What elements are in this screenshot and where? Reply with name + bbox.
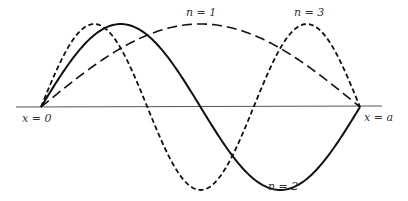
label-n3: n = 3 [294,6,324,19]
label-n1: n = 1 [186,6,216,19]
label-x-zero: x = 0 [22,112,51,125]
wave-modes-diagram: x = 0 x = a n = 1 n = 2 n = 3 [0,0,408,201]
label-n2: n = 2 [268,180,298,193]
label-x-a: x = a [364,111,393,124]
mode-n1-curve [41,24,360,107]
